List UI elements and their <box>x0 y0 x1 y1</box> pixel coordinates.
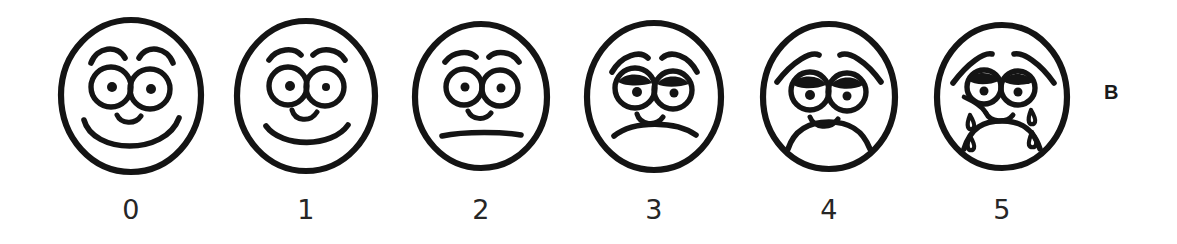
face-option-5[interactable]: 5 <box>918 0 1086 244</box>
face-label-4: 4 <box>745 196 913 223</box>
face-label-3: 3 <box>570 196 738 223</box>
face-option-1[interactable]: 1 <box>222 0 390 244</box>
face-option-0[interactable]: 0 <box>47 0 215 244</box>
face-label-2: 2 <box>397 196 565 223</box>
face-drawing-slight-smile <box>230 14 382 184</box>
face-drawing-neutral <box>405 14 557 184</box>
face-drawing-slight-frown <box>578 14 730 184</box>
face-option-2[interactable]: 2 <box>397 0 565 244</box>
panel-label-b: B <box>1104 82 1144 102</box>
face-label-5: 5 <box>918 196 1086 223</box>
face-option-4[interactable]: 4 <box>745 0 913 244</box>
face-drawing-crying <box>926 14 1078 184</box>
face-drawing-smiling <box>55 14 207 184</box>
faces-row: 0 1 <box>0 0 1100 244</box>
face-option-3[interactable]: 3 <box>570 0 738 244</box>
face-label-0: 0 <box>47 196 215 223</box>
faces-pain-rating-scale: 0 1 <box>0 0 1177 244</box>
face-drawing-frowning <box>753 14 905 184</box>
face-label-1: 1 <box>222 196 390 223</box>
